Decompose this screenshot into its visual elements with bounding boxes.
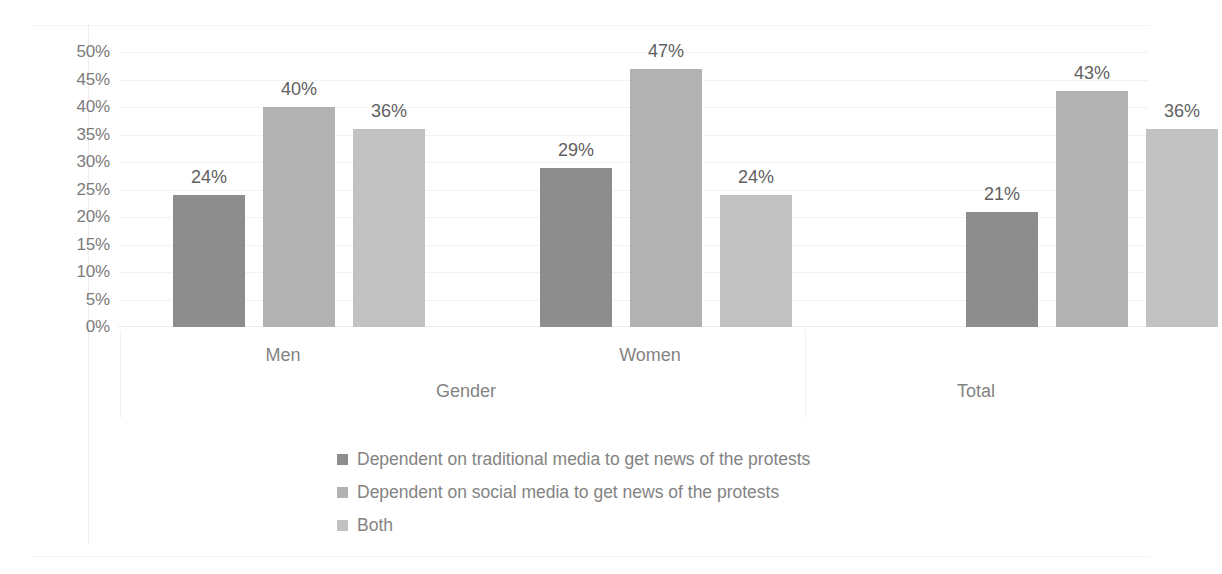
category-label-men: Men — [265, 345, 300, 366]
legend-swatch-icon — [337, 520, 348, 531]
legend-swatch-icon — [337, 487, 348, 498]
y-axis-tick-label: 5% — [86, 290, 110, 310]
bar-value-label: 43% — [1047, 63, 1137, 84]
bar-total-series-1[interactable] — [966, 212, 1038, 328]
bar-value-label: 47% — [621, 41, 711, 62]
group-label-total: Total — [957, 381, 995, 402]
y-axis-tick-label: 25% — [77, 180, 110, 200]
bar-value-label: 29% — [531, 140, 621, 161]
y-axis-tick-label: 20% — [77, 207, 110, 227]
chart-legend: Dependent on traditional media to get ne… — [0, 443, 1169, 542]
y-axis-tick-label: 10% — [77, 262, 110, 282]
bar-women-series-3[interactable] — [720, 195, 792, 327]
bar-value-label: 36% — [1137, 101, 1222, 122]
bar-women-series-2[interactable] — [630, 69, 702, 328]
y-axis-tick-label: 50% — [77, 42, 110, 62]
page-bottom-artifact — [30, 556, 1150, 557]
bar-total-series-2[interactable] — [1056, 91, 1128, 328]
y-axis: 50%45%40%35%30%25%20%15%10%5%0% — [40, 52, 110, 327]
page-top-artifact — [30, 25, 1150, 26]
bar-women-series-1[interactable] — [540, 168, 612, 328]
legend-label: Dependent on social media to get news of… — [357, 482, 779, 503]
bar-value-label: 24% — [711, 167, 801, 188]
category-label-women: Women — [619, 345, 681, 366]
plot-area: 24%40%36%29%47%24%21%43%36% — [118, 52, 1148, 327]
bar-value-label: 21% — [957, 184, 1047, 205]
bar-men-series-3[interactable] — [353, 129, 425, 327]
y-axis-tick-label: 35% — [77, 125, 110, 145]
y-axis-tick-label: 40% — [77, 97, 110, 117]
y-axis-tick-label: 0% — [86, 317, 110, 337]
legend-item[interactable]: Dependent on traditional media to get ne… — [0, 443, 1169, 476]
legend-label: Both — [357, 515, 393, 536]
bar-total-series-3[interactable] — [1146, 129, 1218, 327]
bar-value-label: 36% — [344, 101, 434, 122]
legend-swatch-icon — [337, 454, 348, 465]
bar-value-label: 40% — [254, 79, 344, 100]
legend-label: Dependent on traditional media to get ne… — [357, 449, 810, 470]
y-axis-tick-label: 30% — [77, 152, 110, 172]
group-separator — [805, 330, 806, 418]
legend-item[interactable]: Dependent on social media to get news of… — [0, 476, 1169, 509]
bar-men-series-1[interactable] — [173, 195, 245, 327]
group-label-gender: Gender — [436, 381, 496, 402]
group-separator-left — [120, 330, 121, 418]
bar-value-label: 24% — [164, 167, 254, 188]
y-axis-tick-label: 45% — [77, 70, 110, 90]
legend-item[interactable]: Both — [0, 509, 1169, 542]
y-axis-tick-label: 15% — [77, 235, 110, 255]
bar-men-series-2[interactable] — [263, 107, 335, 327]
